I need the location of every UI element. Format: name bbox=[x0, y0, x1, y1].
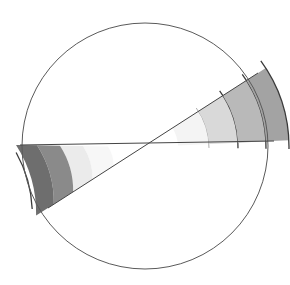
wedge-circle-diagram bbox=[0, 0, 290, 285]
right-wedge bbox=[172, 61, 289, 149]
left-wedge bbox=[16, 145, 114, 216]
diagram-canvas: Hand-drawn circle with two crossing line… bbox=[0, 0, 290, 285]
